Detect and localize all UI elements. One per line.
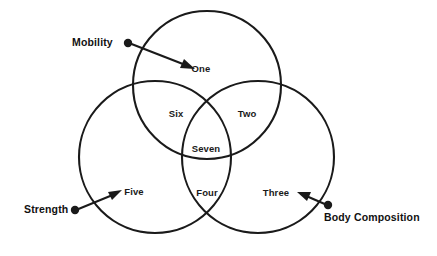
callout-dot-mobility (124, 39, 132, 47)
venn-diagram: One Six Two Seven Five Four Three Mobili… (0, 0, 437, 256)
set-label-mobility: Mobility (72, 36, 113, 48)
set-label-strength: Strength (24, 203, 68, 215)
callout-line-strength (76, 194, 115, 210)
callout-mobility (124, 39, 195, 69)
callout-dot-strength (71, 206, 79, 214)
circle-mobility (133, 11, 281, 159)
circle-body-composition (182, 81, 334, 233)
circle-strength (79, 81, 231, 233)
callout-strength (71, 190, 122, 214)
arrow-head-body-composition (297, 192, 311, 201)
callout-dot-body-composition (324, 201, 332, 209)
set-label-body-composition: Body Composition (324, 211, 420, 223)
callout-line-mobility (129, 43, 188, 66)
arrow-head-mobility (180, 59, 195, 69)
arrow-head-strength (108, 190, 122, 200)
